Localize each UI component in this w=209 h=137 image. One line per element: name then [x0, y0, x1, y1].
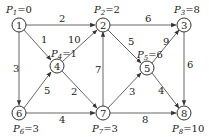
node-7: 7: [96, 106, 110, 120]
node-3-label: 3: [181, 20, 187, 31]
potential-label-2: P2=2: [93, 4, 120, 17]
edge-weight-5-3: 9: [163, 36, 169, 47]
node-2-label: 2: [100, 20, 106, 31]
node-1: 1: [12, 18, 26, 32]
node-4-label: 4: [54, 61, 60, 72]
edge-weight-1-6: 3: [13, 63, 19, 74]
edge-weight-2-5: 5: [128, 36, 134, 47]
potential-label-5: P5=6: [136, 49, 163, 62]
node-4: 4: [50, 59, 64, 73]
edge-weight-1-4: 1: [41, 34, 47, 45]
node-6: 6: [12, 106, 26, 120]
node-7-label: 7: [100, 108, 106, 119]
edge-weight-7-8: 8: [142, 114, 148, 125]
node-8-label: 8: [181, 108, 187, 119]
edge-weight-7-5: 3: [129, 86, 135, 97]
potential-label-3: P3=8: [173, 4, 200, 17]
edge-weight-6-7: 4: [59, 114, 65, 125]
node-1-label: 1: [16, 20, 22, 31]
edge-weight-4-7: 2: [71, 86, 77, 97]
edge-weight-5-8: 4: [158, 85, 164, 96]
edge-weight-2-3: 6: [145, 13, 151, 24]
potential-label-8: P8=10: [171, 123, 204, 136]
potential-label-7: P7=3: [91, 123, 118, 136]
node-6-label: 6: [16, 108, 22, 119]
edge-weight-6-4: 5: [44, 85, 50, 96]
edge-7-5: [108, 73, 141, 108]
edge-weight-1-2: 2: [59, 13, 65, 24]
edge-weight-4-2: 10: [68, 34, 81, 45]
node-8: 8: [177, 106, 191, 120]
edge-weight-3-8: 6: [187, 59, 193, 70]
node-5: 5: [140, 61, 154, 75]
potential-label-4: P4=1: [50, 48, 77, 61]
node-5-label: 5: [144, 63, 150, 74]
shortest-path-graph: 2 1 3 10 5 2 7 4 6 5 9 3 4: [0, 0, 209, 137]
potential-label-1: P1=0: [5, 4, 32, 17]
edge-4-7: [62, 71, 97, 108]
node-2: 2: [96, 18, 110, 32]
node-3: 3: [177, 18, 191, 32]
potential-label-6: P6=3: [12, 123, 39, 136]
edge-5-8: [152, 73, 179, 108]
edge-weight-7-2: 7: [95, 64, 101, 75]
